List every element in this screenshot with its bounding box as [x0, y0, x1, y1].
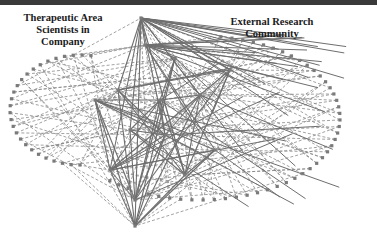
- label-internal-scientists: Therapeutic Area Scientists in Company: [18, 12, 108, 48]
- label-external-community: External Research Community: [222, 16, 322, 40]
